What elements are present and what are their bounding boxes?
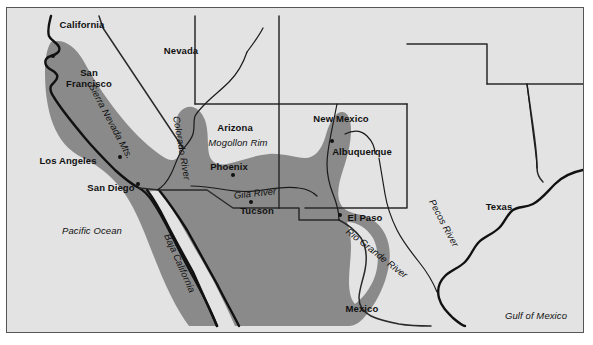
city-dot-tucson: [249, 200, 253, 204]
map-frame: CaliforniaNevadaArizonaNew MexicoTexasMe…: [6, 7, 584, 333]
gulf-of-mexico-coastline: [438, 170, 583, 326]
border-colorado-kansas: [407, 44, 487, 84]
river-brazos-texas: [527, 84, 537, 168]
city-dot-albuquerque: [330, 139, 334, 143]
city-dot-el-paso: [338, 213, 342, 217]
city-dot-phoenix: [231, 173, 235, 177]
river-pecos: [379, 158, 437, 292]
map-figure: CaliforniaNevadaArizonaNew MexicoTexasMe…: [0, 0, 593, 345]
city-dot-los-angeles: [118, 155, 122, 159]
river-colorado-tributary: [247, 28, 263, 52]
city-dot-san-francisco: [51, 54, 55, 58]
city-dot-san-diego: [136, 182, 140, 186]
map-graphic: [7, 8, 583, 332]
